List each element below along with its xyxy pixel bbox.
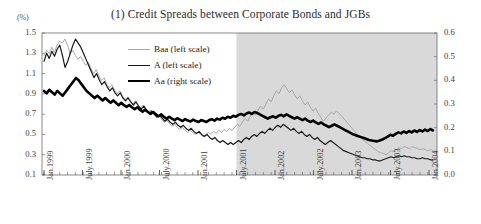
left-axis-tick-label: 0.3 [10,150,36,159]
legend-item-baa: Baa (left scale) [128,44,210,54]
right-axis-tick-label: 0.0 [444,170,470,179]
legend-item-a: A (left scale) [128,60,201,70]
credit-spreads-chart-figure: (%) (1) Credit Spreads between Corporate… [0,0,481,224]
left-axis-tick-label: 1.5 [10,28,36,37]
x-axis-tick-label: Jan.2000 [124,151,132,180]
x-axis-tick-label: July.1999 [86,148,94,180]
right-axis-tick-label: 0.3 [444,99,470,108]
right-axis-tick-label: 0.1 [444,146,470,155]
x-axis-tick-label: Jan.2002 [278,151,286,180]
left-axis-tick-label: 0.5 [10,129,36,138]
x-axis-tick-label: Jan.1999 [47,151,55,180]
x-axis-tick-label: Jan.2001 [201,151,209,180]
right-axis-tick-label: 0.6 [444,28,470,37]
legend-line-swatch-aa [128,80,150,82]
chart-title: (1) Credit Spreads between Corporate Bon… [0,8,481,20]
chart-plot-area [0,0,481,224]
x-axis-tick-label: July.2002 [317,148,325,180]
legend-label-a: A (left scale) [154,60,201,70]
legend-line-swatch-baa [128,49,150,50]
legend-label-baa: Baa (left scale) [154,44,210,54]
x-axis-tick-label: July.2003 [394,148,402,180]
x-axis-tick-label: July.2001 [240,148,248,180]
x-axis-tick-label: Jan.2004 [432,151,440,180]
left-axis-tick-label: 0.7 [10,109,36,118]
left-axis-tick-label: 1.3 [10,48,36,57]
legend-label-aa: Aa (right scale) [154,76,211,86]
left-axis-tick-label: 1.1 [10,69,36,78]
left-axis-tick-label: 0.9 [10,89,36,98]
shaded-recession-region [237,33,438,175]
right-axis-tick-label: 0.5 [444,52,470,61]
right-axis-tick-label: 0.2 [444,123,470,132]
right-axis-tick-label: 0.4 [444,75,470,84]
x-axis-tick-label: July.2000 [163,148,171,180]
legend-item-aa: Aa (right scale) [128,76,211,86]
left-axis-tick-label: 0.1 [10,170,36,179]
legend-line-swatch-a [128,65,150,66]
x-axis-tick-label: Jan.2003 [355,151,363,180]
